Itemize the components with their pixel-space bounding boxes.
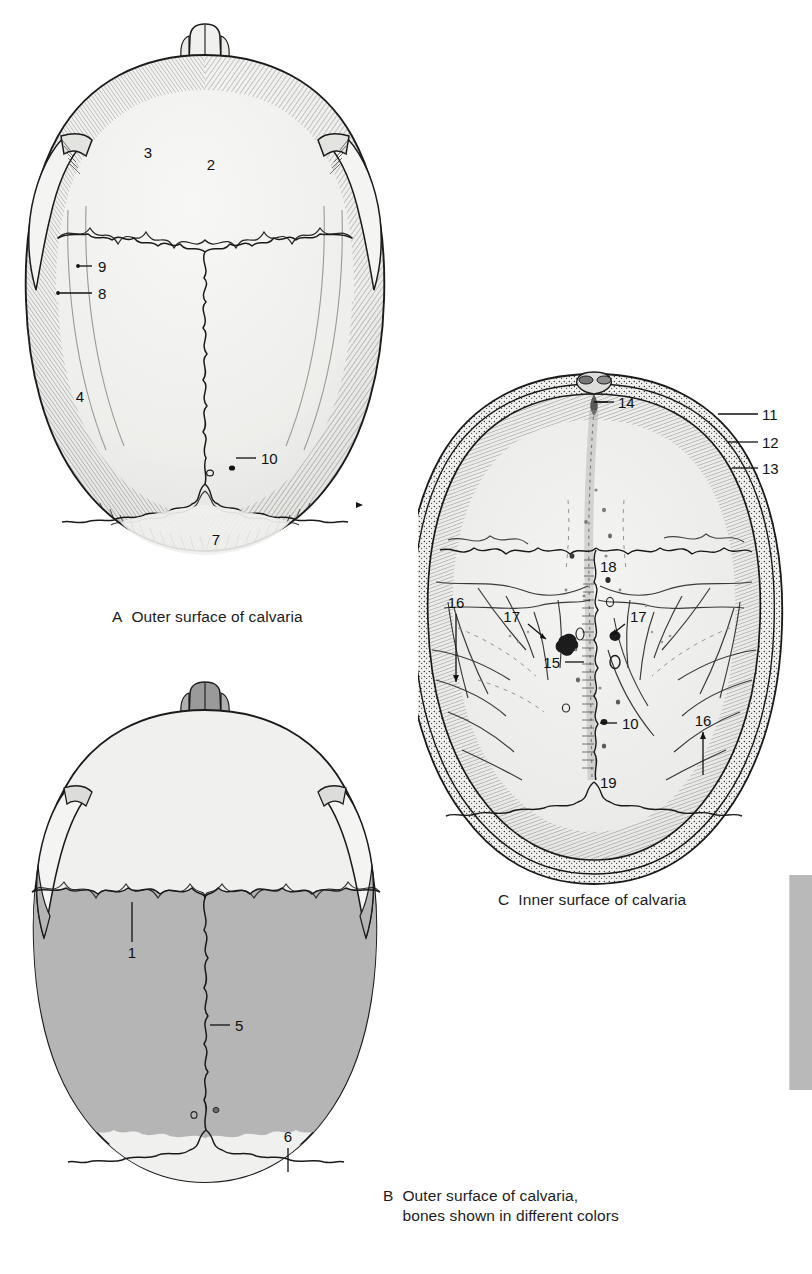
margin-speck-a — [356, 502, 363, 508]
label-6: 6 — [284, 1128, 292, 1145]
label-8: 8 — [98, 285, 106, 302]
page-edge-tab — [789, 875, 812, 1090]
label-17-right: 17 — [630, 608, 647, 625]
figure-b-svg: 1 5 6 — [14, 680, 414, 1190]
figure-b-outer-surface-colored-bones: 1 5 6 — [14, 680, 414, 1190]
figure-a-caption-text: Outer surface of calvaria — [131, 607, 302, 627]
illustration-page: 3 2 4 7 9 8 10 AOuter surface of calvari… — [0, 0, 812, 1274]
label-12: 12 — [762, 434, 779, 451]
label-16-right: 16 — [695, 712, 712, 729]
label-13: 13 — [762, 460, 779, 477]
figure-c-svg: 11 12 13 14 15 16 16 17 17 18 19 10 — [418, 350, 812, 890]
label-11: 11 — [762, 406, 778, 423]
label-4: 4 — [76, 388, 84, 405]
figure-b-caption-text: Outer surface of calvaria,bones shown in… — [402, 1186, 619, 1227]
label-10: 10 — [261, 450, 278, 467]
figure-a-svg: 3 2 4 7 9 8 10 — [0, 10, 410, 600]
label-2: 2 — [207, 156, 215, 173]
label-16-left: 16 — [448, 594, 465, 611]
label-5: 5 — [235, 1017, 243, 1034]
label-14: 14 — [618, 394, 635, 411]
figure-b-caption-letter: B — [383, 1186, 393, 1206]
label-9: 9 — [98, 258, 106, 275]
figure-a-outer-surface-of-calvaria: 3 2 4 7 9 8 10 — [0, 10, 410, 600]
label-10-c: 10 — [622, 715, 639, 732]
label-7: 7 — [212, 531, 220, 548]
label-3: 3 — [144, 144, 152, 161]
label-1: 1 — [128, 944, 136, 961]
label-17-left: 17 — [503, 608, 520, 625]
figure-a-caption: AOuter surface of calvaria — [112, 607, 303, 627]
label-19: 19 — [600, 774, 617, 791]
figure-c-caption-text: Inner surface of calvaria — [518, 890, 686, 910]
figure-c-inner-surface-of-calvaria: 11 12 13 14 15 16 16 17 17 18 19 10 — [418, 350, 812, 890]
figure-b-caption-line2: bones shown in different colors — [402, 1207, 619, 1224]
label-18: 18 — [600, 558, 617, 575]
figure-c-caption-letter: C — [498, 890, 509, 910]
figure-c-caption: CInner surface of calvaria — [498, 890, 686, 910]
label-15: 15 — [543, 654, 560, 671]
figure-a-caption-letter: A — [112, 607, 122, 627]
figure-b-caption-line1: Outer surface of calvaria, — [402, 1187, 578, 1204]
figure-b-caption: BOuter surface of calvaria,bones shown i… — [383, 1186, 619, 1227]
